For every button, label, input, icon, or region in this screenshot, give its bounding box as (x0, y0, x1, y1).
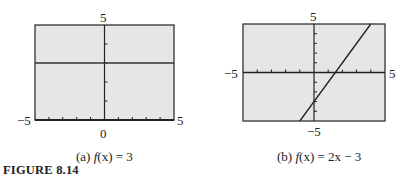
caption-b-prefix: (b) (277, 149, 292, 164)
caption-b-rest: (x) = 2x − 3 (299, 149, 361, 164)
x-max-label-b: 5 (389, 67, 396, 80)
y-min-label-b: −5 (307, 125, 321, 138)
y-max-label-b: 5 (310, 10, 317, 23)
x-min-label-b: −5 (224, 67, 238, 80)
caption-b: (b) f(x) = 2x − 3 (277, 150, 361, 164)
